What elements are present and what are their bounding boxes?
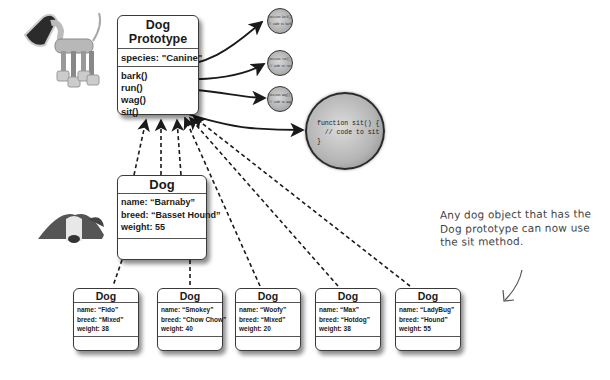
dog-breed: breed: “Hound” [399,315,457,325]
dog-breed: breed: “Chow Chow” [161,315,219,325]
dog-weight: weight: 38 [319,324,377,334]
method-sit: sit() [121,106,195,118]
dog-title: Dog [316,289,380,303]
dog-box-smokey: Dog name: “Smokey” breed: “Chow Chow” we… [157,288,223,351]
barnaby-breed: breed: “Basset Hound” [121,209,203,222]
sit-function-code: function sit() { // code to sit } [317,119,379,146]
dog-box-fido: Dog name: “Fido” breed: “Mixed” weight: … [73,288,139,351]
dog-breed: breed: “Hotdog” [319,315,377,325]
dog-prototype-box: Dog Prototype species: "Canine" bark() r… [117,15,199,115]
prototype-title: Dog Prototype [118,16,198,49]
dog-weight: weight: 40 [161,324,219,334]
bark-function-circle: function bark() { // code to bark [267,8,293,34]
annotation-note: Any dog object that has the Dog prototyp… [440,207,600,249]
dog-weight: weight: 55 [399,324,457,334]
barnaby-dog-box: Dog name: “Barnaby” breed: “Basset Hound… [117,175,207,260]
basset-hound-image [30,205,110,245]
dog-title: Dog [236,289,300,303]
dog-title: Dog [396,289,460,303]
barnaby-weight: weight: 55 [121,221,203,234]
prototype-property-species: species: "Canine" [121,52,195,63]
robot-dog-image [15,5,105,95]
dog-name: name: “LadyBug” [399,305,457,315]
dog-breed: breed: “Mixed” [77,315,135,325]
method-bark: bark() [121,70,195,82]
dog-box-ladybug: Dog name: “LadyBug” breed: “Hound” weigh… [395,288,461,351]
barnaby-title: Dog [118,176,206,194]
dog-box-max: Dog name: “Max” breed: “Hotdog” weight: … [315,288,381,351]
prototype-diagram: Dog Prototype species: "Canine" bark() r… [0,0,610,380]
dog-title: Dog [158,289,222,303]
run-function-circle: function run() { // code to run [267,50,293,76]
method-run: run() [121,82,195,94]
dog-box-woofy: Dog name: “Woofy” breed: “Mixed” weight:… [235,288,301,351]
sit-function-circle: function sit() { // code to sit } [305,92,385,170]
dog-name: name: “Fido” [77,305,135,315]
dog-name: name: “Woofy” [239,305,297,315]
dog-weight: weight: 38 [77,324,135,334]
barnaby-name: name: “Barnaby” [121,196,203,209]
dog-name: name: “Smokey” [161,305,219,315]
dog-name: name: “Max” [319,305,377,315]
dog-title: Dog [74,289,138,303]
dog-breed: breed: “Mixed” [239,315,297,325]
method-wag: wag() [121,94,195,106]
dog-weight: weight: 20 [239,324,297,334]
wag-function-circle: function wag() { // code to wag [267,86,293,112]
